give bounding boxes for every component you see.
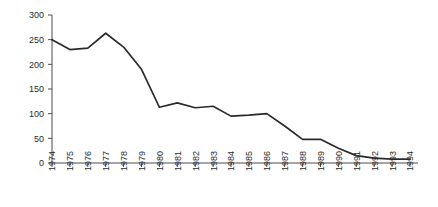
x-tick-label: 1984 xyxy=(226,151,236,171)
x-tick-label: 1975 xyxy=(65,151,75,171)
x-tick-label: 1986 xyxy=(262,151,272,171)
y-tick-label: 200 xyxy=(29,60,44,70)
x-tick-label: 1978 xyxy=(119,151,129,171)
x-tick-label: 1977 xyxy=(101,151,111,171)
y-tick-label: 250 xyxy=(29,35,44,45)
y-tick-label: 0 xyxy=(39,158,44,168)
x-tick-label: 1981 xyxy=(173,151,183,171)
line-chart: 0501001502002503001974197519761977197819… xyxy=(0,0,438,207)
x-tick-label: 1990 xyxy=(334,151,344,171)
y-tick-label: 50 xyxy=(34,134,44,144)
x-tick-label: 1980 xyxy=(155,151,165,171)
x-tick-label: 1993 xyxy=(388,151,398,171)
x-tick-label: 1994 xyxy=(405,151,415,171)
x-tick-label: 1974 xyxy=(47,151,57,171)
y-tick-label: 150 xyxy=(29,84,44,94)
x-tick-label: 1988 xyxy=(298,151,308,171)
x-tick-label: 1979 xyxy=(137,151,147,171)
x-tick-label: 1992 xyxy=(370,151,380,171)
x-tick-label: 1983 xyxy=(209,151,219,171)
x-tick-label: 1985 xyxy=(244,151,254,171)
y-tick-label: 100 xyxy=(29,109,44,119)
chart-plot-area: 0501001502002503001974197519761977197819… xyxy=(0,0,438,207)
data-series-line xyxy=(52,33,410,159)
x-tick-label: 1987 xyxy=(280,151,290,171)
y-tick-label: 300 xyxy=(29,10,44,20)
x-tick-label: 1976 xyxy=(83,151,93,171)
x-tick-label: 1989 xyxy=(316,151,326,171)
x-tick-label: 1982 xyxy=(191,151,201,171)
